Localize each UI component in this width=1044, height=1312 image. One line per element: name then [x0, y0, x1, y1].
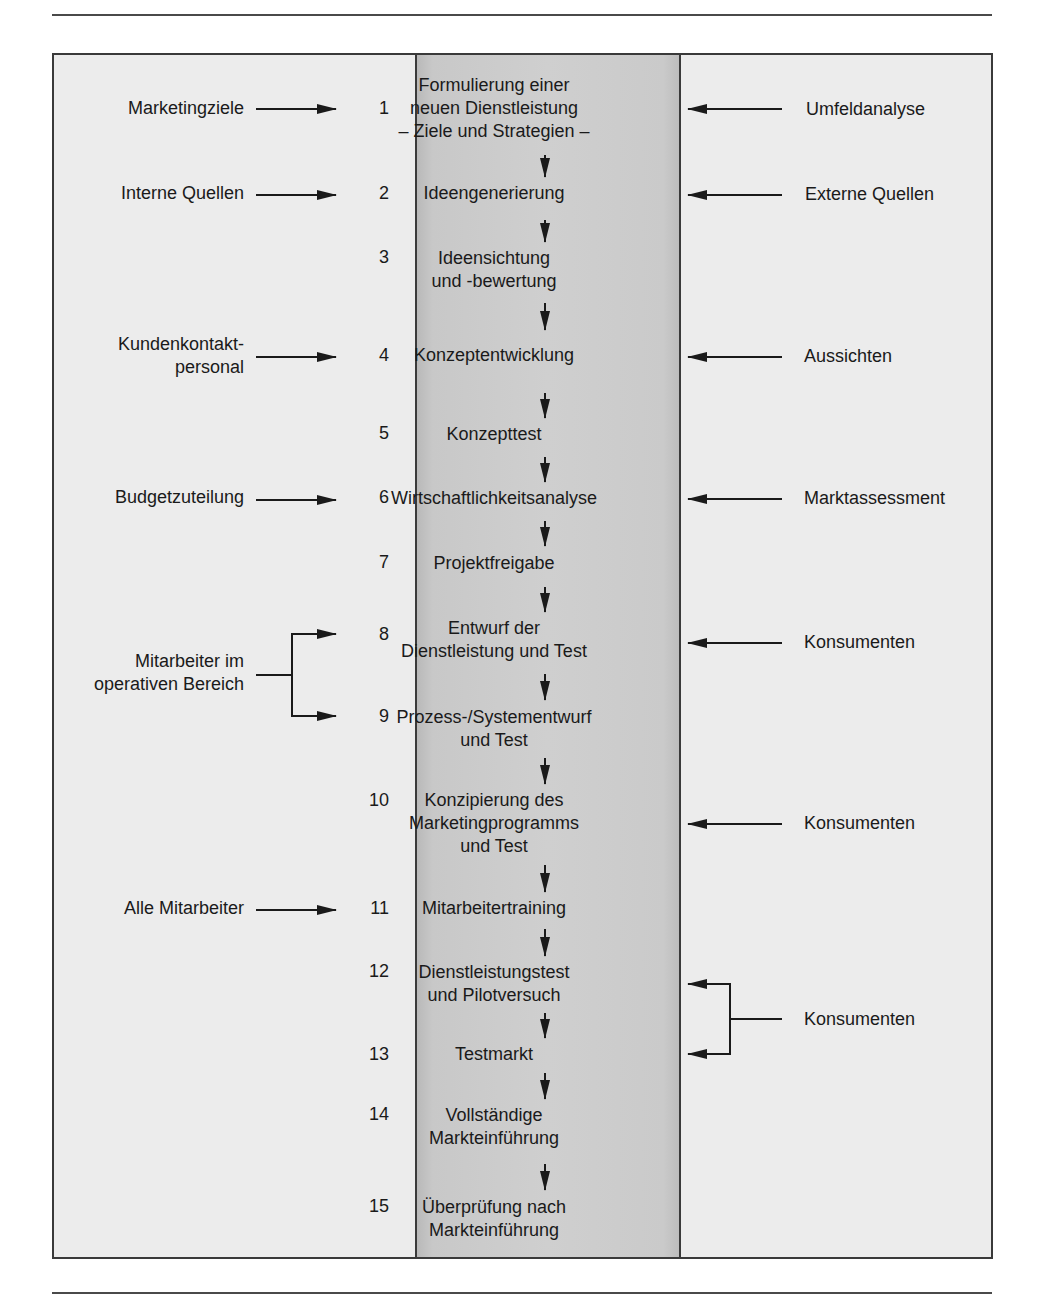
input-label-line: Kundenkontakt- [44, 333, 244, 356]
bottom-rule [52, 1292, 992, 1294]
left-input-alle-mitarbeiter: Alle Mitarbeiter [44, 897, 244, 920]
step-box-15: Überprüfung nach Markteinführung [363, 1196, 625, 1242]
input-label-line: operativen Bereich [44, 673, 244, 696]
step-label-line: Vollständige [363, 1104, 625, 1127]
step-label-line: Dienstleistungstest [363, 961, 625, 984]
step-label-line: Ideensichtung [363, 247, 625, 270]
step-label-line: Konzeptentwicklung [363, 344, 625, 367]
input-label-line: personal [44, 356, 244, 379]
left-input-marketingziele: Marketingziele [44, 97, 244, 120]
step-label-line: Entwurf der [363, 617, 625, 640]
top-rule [52, 14, 992, 16]
step-box-8: Entwurf der Dienstleistung und Test [363, 617, 625, 663]
right-input-umfeldanalyse: Umfeldanalyse [806, 98, 925, 121]
step-label-line: Markteinführung [363, 1219, 625, 1242]
step-label-line: Marketingprogramms [363, 812, 625, 835]
step-box-10: Konzipierung des Marketingprogramms und … [363, 789, 625, 858]
left-input-budgetzuteilung: Budgetzuteilung [44, 486, 244, 509]
step-box-7: Projektfreigabe [363, 552, 625, 575]
step-label-line: Mitarbeitertraining [363, 897, 625, 920]
step-label-line: Ideengenerierung [363, 182, 625, 205]
left-input-interne-quellen: Interne Quellen [44, 182, 244, 205]
step-box-1: Formulierung einer neuen Dienstleistung … [363, 74, 625, 143]
step-label-line: Konzepttest [363, 423, 625, 446]
step-box-14: Vollständige Markteinführung [363, 1104, 625, 1150]
step-box-5: Konzepttest [363, 423, 625, 446]
step-label-line: und Pilotversuch [363, 984, 625, 1007]
step-box-6: Wirtschaftlichkeitsanalyse [363, 487, 625, 510]
input-label-line: Budgetzuteilung [44, 486, 244, 509]
step-box-12: Dienstleistungstest und Pilotversuch [363, 961, 625, 1007]
step-label-line: und -bewertung [363, 270, 625, 293]
input-label-line: Konsumenten [804, 1008, 915, 1031]
input-label-line: Mitarbeiter im [44, 650, 244, 673]
input-label-line: Marktassessment [804, 487, 945, 510]
input-label-line: Externe Quellen [805, 183, 934, 206]
step-label-line: – Ziele und Strategien – [363, 120, 625, 143]
input-label-line: Konsumenten [804, 812, 915, 835]
input-label-line: Interne Quellen [44, 182, 244, 205]
left-input-mitarbeiter-operativ: Mitarbeiter im operativen Bereich [44, 650, 244, 696]
input-label-line: Marketingziele [44, 97, 244, 120]
step-label-line: Prozess-/Systementwurf [363, 706, 625, 729]
input-label-line: Aussichten [804, 345, 892, 368]
step-label-line: Konzipierung des [363, 789, 625, 812]
input-label-line: Umfeldanalyse [806, 98, 925, 121]
right-input-konsumenten-10: Konsumenten [804, 812, 915, 835]
step-label-line: Testmarkt [363, 1043, 625, 1066]
step-box-3: Ideensichtung und -bewertung [363, 247, 625, 293]
step-box-4: Konzeptentwicklung [363, 344, 625, 367]
step-label-line: Überprüfung nach [363, 1196, 625, 1219]
step-box-13: Testmarkt [363, 1043, 625, 1066]
step-label-line: Dienstleistung und Test [363, 640, 625, 663]
step-label-line: Projektfreigabe [363, 552, 625, 575]
right-input-konsumenten-12-13: Konsumenten [804, 1008, 915, 1031]
right-input-aussichten: Aussichten [804, 345, 892, 368]
step-box-9: Prozess-/Systementwurf und Test [363, 706, 625, 752]
step-label-line: Wirtschaftlichkeitsanalyse [363, 487, 625, 510]
step-box-2: Ideengenerierung [363, 182, 625, 205]
step-box-11: Mitarbeitertraining [363, 897, 625, 920]
step-label-line: Markteinführung [363, 1127, 625, 1150]
right-input-externe-quellen: Externe Quellen [805, 183, 934, 206]
left-input-kundenkontaktpersonal: Kundenkontakt- personal [44, 333, 244, 379]
step-label-line: und Test [363, 835, 625, 858]
right-input-konsumenten-8: Konsumenten [804, 631, 915, 654]
right-input-marktassessment: Marktassessment [804, 487, 945, 510]
step-label-line: neuen Dienstleistung [363, 97, 625, 120]
input-label-line: Alle Mitarbeiter [44, 897, 244, 920]
step-label-line: und Test [363, 729, 625, 752]
step-label-line: Formulierung einer [363, 74, 625, 97]
input-label-line: Konsumenten [804, 631, 915, 654]
